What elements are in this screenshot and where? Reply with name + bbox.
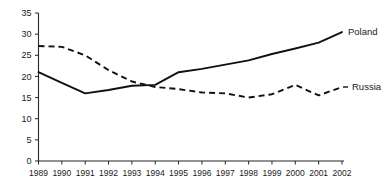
y-tick-label: 35 [21, 8, 31, 18]
y-tick-label: 30 [21, 29, 31, 39]
x-tick-label: 2002 [333, 168, 352, 178]
x-tick-label: 1994 [146, 168, 165, 178]
x-tick-label: 1999 [263, 168, 282, 178]
x-tick-label: 1998 [239, 168, 258, 178]
x-tick-label: 2001 [309, 168, 328, 178]
series-annotation-group: Poland Russia [343, 26, 382, 92]
x-tick-label-group: 1989199019911992199319941995199619971998… [29, 168, 352, 178]
y-tick-label-group: 05101520253035 [21, 8, 31, 166]
y-tick-label: 10 [21, 114, 31, 124]
y-tick-label: 15 [21, 93, 31, 103]
x-tick-label: 1989 [29, 168, 48, 178]
y-tick-label: 20 [21, 72, 31, 82]
series-label-russia: Russia [352, 81, 382, 92]
series-line-poland [39, 32, 343, 93]
x-tick-label: 1997 [216, 168, 235, 178]
x-tick-label: 1992 [99, 168, 118, 178]
series-line-russia [39, 46, 343, 98]
data-series-group [39, 32, 343, 98]
x-axis: 1989199019911992199319941995199619971998… [29, 161, 352, 178]
y-tick-label: 5 [26, 135, 31, 145]
x-tick-label: 2000 [286, 168, 305, 178]
chart-canvas: 05101520253035 1989199019911992199319941… [0, 0, 385, 183]
line-chart: 05101520253035 1989199019911992199319941… [0, 0, 385, 183]
y-tick-label: 0 [26, 156, 31, 166]
x-tick-label: 1995 [169, 168, 188, 178]
series-label-poland: Poland [348, 26, 378, 37]
x-tick-label: 1996 [192, 168, 211, 178]
x-tick-label: 1993 [122, 168, 141, 178]
y-tick-label: 25 [21, 50, 31, 60]
x-tick-label: 1991 [76, 168, 95, 178]
x-tick-label: 1990 [52, 168, 71, 178]
y-axis: 05101520253035 [21, 8, 38, 166]
